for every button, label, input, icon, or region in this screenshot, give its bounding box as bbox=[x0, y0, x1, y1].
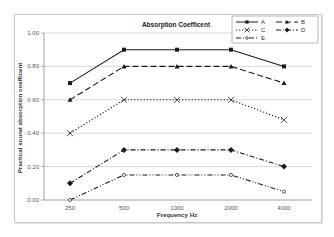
y-tick-label: 0.40 bbox=[27, 130, 39, 136]
x-tick-label: 250 bbox=[65, 205, 76, 211]
y-axis-ticks: 0.000.200.400.600.801.00 bbox=[27, 30, 44, 203]
legend: ABCDE bbox=[232, 16, 318, 43]
legend-label: B bbox=[301, 19, 305, 25]
y-tick-label: 0.80 bbox=[27, 63, 39, 69]
y-tick-label: 0.20 bbox=[27, 164, 39, 170]
y-tick-label: 0.60 bbox=[27, 97, 39, 103]
series-b bbox=[68, 64, 287, 102]
series-e bbox=[68, 173, 285, 201]
y-axis-title: Practical sound absorption coefficent bbox=[16, 63, 23, 174]
y-tick-label: 1.00 bbox=[27, 30, 39, 36]
legend-label: E bbox=[261, 35, 265, 41]
data-series bbox=[67, 48, 287, 202]
legend-label: A bbox=[261, 19, 265, 25]
x-axis-title: Frequency Hz bbox=[157, 211, 198, 218]
x-tick-label: 2000 bbox=[224, 205, 238, 211]
y-tick-label: 0.00 bbox=[27, 197, 39, 203]
chart-title: Absorption Coefficent bbox=[142, 21, 211, 29]
x-tick-label: 4000 bbox=[277, 205, 291, 211]
series-c bbox=[67, 97, 287, 136]
x-tick-label: 500 bbox=[119, 205, 130, 211]
grid-lines bbox=[44, 33, 312, 167]
legend-label: D bbox=[301, 27, 306, 33]
legend-label: C bbox=[261, 27, 266, 33]
line-chart: 0.000.200.400.600.801.00 250500100020004… bbox=[0, 0, 334, 237]
